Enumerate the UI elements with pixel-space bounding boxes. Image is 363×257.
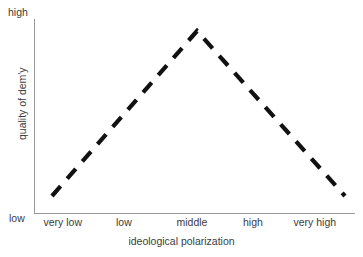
data-series-line [52,31,345,196]
chart-figure: high low quality of dem'y very low low m… [0,0,363,257]
data-line-plot [0,0,363,257]
